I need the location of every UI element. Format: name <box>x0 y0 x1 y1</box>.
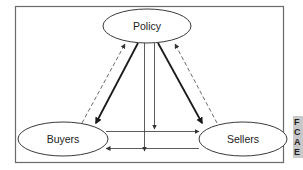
side-tab-glyph-2: C <box>294 127 301 137</box>
node-policy: Policy <box>103 9 191 43</box>
side-tab-glyph-4: E <box>294 147 300 157</box>
side-tab-glyph-3: A <box>294 137 301 147</box>
policy-label: Policy <box>133 20 162 32</box>
side-tab-glyph-1: F <box>294 117 300 127</box>
side-tab: F C A E <box>293 116 303 158</box>
node-buyers: Buyers <box>18 122 108 156</box>
sellers-label: Sellers <box>227 133 259 145</box>
buyers-label: Buyers <box>47 133 80 145</box>
node-sellers: Sellers <box>199 122 287 156</box>
diagram-canvas: Policy Buyers Sellers F C A E <box>0 0 303 170</box>
